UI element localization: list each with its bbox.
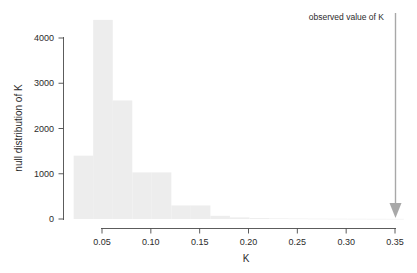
histogram-bar [152,172,172,219]
histogram-bar [230,217,250,219]
x-axis-tick-label: 0.25 [289,237,307,247]
histogram-bar [308,219,328,220]
histogram-bar [289,219,309,220]
histogram-bar [113,100,133,219]
y-axis-tick-label: 3000 [34,78,54,88]
x-axis-tick-label: 0.20 [240,237,258,247]
chart-canvas: 01000200030004000 0.050.100.150.200.250.… [0,0,417,273]
x-axis-tick-labels: 0.050.100.150.200.250.300.35 [93,237,404,247]
histogram-bar [367,219,387,220]
y-axis-tick-label: 0 [49,214,54,224]
y-axis-tick-labels: 01000200030004000 [34,33,54,224]
y-axis-tick-label: 1000 [34,169,54,179]
histogram-figure: 01000200030004000 0.050.100.150.200.250.… [0,0,417,273]
x-axis-tick-label: 0.35 [386,237,404,247]
down-arrow-icon [390,203,402,218]
histogram-bar [171,205,191,219]
histogram-bar [328,219,348,220]
x-axis-tick-label: 0.30 [337,237,355,247]
histogram-bar [269,218,289,219]
observed-value-label: observed value of K [309,12,384,22]
histogram-bar [191,205,211,219]
y-axis-tick-label: 2000 [34,124,54,134]
histogram-bar [386,219,404,220]
histogram-bar [74,156,94,219]
y-axis-tick-label: 4000 [34,33,54,43]
x-axis-ticks [102,229,395,234]
x-axis-tick-label: 0.05 [93,237,111,247]
y-axis-title: null distribution of K [13,84,24,172]
x-axis-title: K [243,253,250,264]
x-axis-tick-label: 0.15 [191,237,209,247]
x-axis-tick-label: 0.10 [142,237,160,247]
histogram-bar [347,219,367,220]
x-axis [102,229,396,234]
observed-value-marker: observed value of K [309,12,402,218]
histogram-bar [210,216,230,219]
y-axis-ticks [59,38,64,219]
histogram-bar [249,218,269,219]
histogram-bars [74,20,404,220]
histogram-bar [132,172,152,219]
histogram-bar [93,20,113,219]
y-axis [59,38,64,220]
